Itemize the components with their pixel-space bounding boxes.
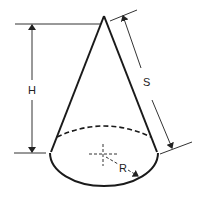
- cone-left-edge: [51, 16, 104, 152]
- slant-arrow-up: [123, 16, 141, 68]
- slant-label: S: [143, 76, 150, 88]
- slant-dimension: S: [110, 10, 192, 154]
- height-dimension: H: [14, 24, 100, 153]
- slant-top-extension: [110, 10, 137, 21]
- radius-arrow: [128, 170, 138, 176]
- cone-diagram: H S R: [0, 0, 204, 200]
- base-front-arc: [50, 153, 158, 186]
- radius-leader: [106, 157, 118, 164]
- radius-dimension: R: [89, 144, 138, 176]
- radius-label: R: [119, 162, 127, 174]
- base-back-arc: [57, 126, 151, 137]
- slant-arrow-down: [152, 100, 172, 148]
- slant-bottom-extension: [160, 142, 192, 154]
- cone-shape: [50, 16, 158, 186]
- height-label: H: [28, 84, 36, 96]
